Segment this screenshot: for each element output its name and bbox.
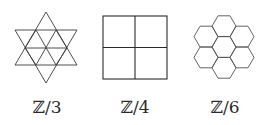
square-tiling-grid [103,16,167,79]
label-z3: ℤ/3 [17,97,77,117]
triangle-tiling-star [15,12,77,83]
label-z6: ℤ/6 [195,97,255,117]
hexagon-tiling-cluster [194,16,254,78]
label-z4: ℤ/4 [105,97,165,117]
